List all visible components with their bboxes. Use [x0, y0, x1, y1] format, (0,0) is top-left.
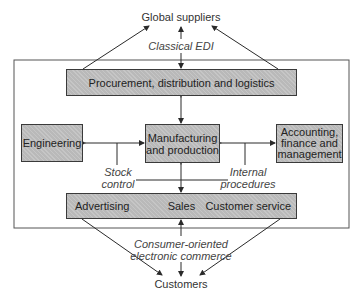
accounting-label-line3: management [277, 149, 341, 160]
arrow-procurement-to-suppliers-left [83, 26, 149, 69]
customer-service-label: Customer service [205, 200, 291, 212]
consumer-ecommerce-label: Consumer-oriented electronic commerce [130, 238, 232, 262]
accounting-box: Accounting, finance and management [276, 124, 343, 163]
sales-box: Advertising Sales Customer service [66, 193, 297, 219]
consumer-ecommerce-line2: electronic commerce [130, 250, 232, 262]
internal-procedures-label: Internal procedures [220, 166, 276, 190]
arrow-procurement-to-suppliers-right [212, 26, 278, 69]
advertising-label: Advertising [75, 200, 129, 212]
internal-procedures-line1: Internal [220, 166, 276, 178]
consumer-ecommerce-line1: Consumer-oriented [130, 238, 232, 250]
engineering-box: Engineering [21, 124, 83, 162]
customers-label: Customers [146, 278, 216, 290]
sales-label: Sales [168, 200, 196, 212]
stock-control-label: Stock control [100, 166, 136, 190]
engineering-label: Engineering [23, 137, 82, 149]
manufacturing-label-line1: Manufacturing [148, 132, 218, 144]
procurement-box: Procurement, distribution and logistics [66, 69, 297, 96]
stock-control-line2: control [100, 178, 136, 190]
internal-procedures-line2: procedures [220, 178, 276, 190]
stock-control-line1: Stock [100, 166, 136, 178]
global-suppliers-label: Global suppliers [137, 11, 225, 23]
classical-edi-label: Classical EDI [145, 40, 217, 52]
manufacturing-label-line2: and production [146, 144, 219, 156]
procurement-label: Procurement, distribution and logistics [89, 77, 275, 89]
manufacturing-box: Manufacturing and production [145, 124, 220, 163]
